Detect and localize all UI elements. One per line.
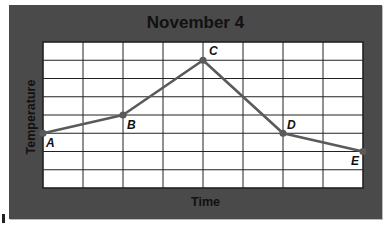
data-point-c bbox=[199, 57, 206, 64]
point-label-d: D bbox=[287, 118, 296, 132]
point-label-c: C bbox=[209, 44, 218, 58]
data-point-d bbox=[279, 130, 286, 137]
point-label-b: B bbox=[127, 118, 136, 132]
point-label-a: A bbox=[45, 136, 55, 150]
plot-area: ABCDE bbox=[0, 0, 389, 225]
point-label-e: E bbox=[351, 154, 360, 168]
data-point-e bbox=[359, 148, 366, 155]
data-point-b bbox=[119, 111, 126, 118]
